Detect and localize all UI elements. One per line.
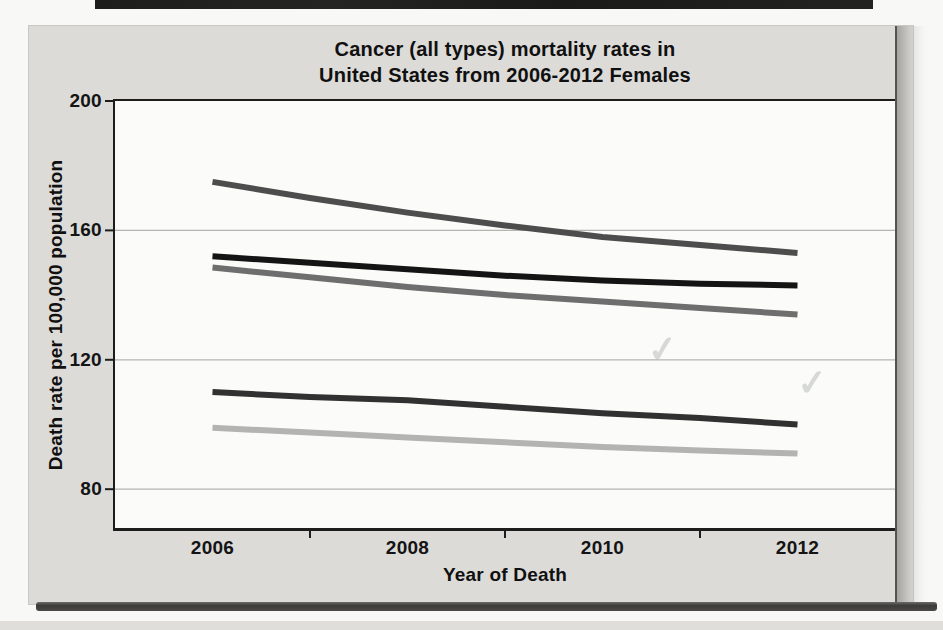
chart-title-line1: Cancer (all types) mortality rates in bbox=[113, 36, 897, 62]
x-tick-label: 2010 bbox=[558, 537, 648, 559]
page-bottom-strip bbox=[0, 621, 943, 630]
plot-area bbox=[113, 99, 897, 531]
bleedthrough-checkmark: ✓ bbox=[646, 327, 680, 372]
y-axis-title: Death rate per 100,000 population bbox=[45, 95, 69, 535]
y-tick-label: 80 bbox=[42, 478, 102, 500]
bleedthrough-checkmark: ✓ bbox=[796, 361, 829, 405]
y-tick-label: 120 bbox=[42, 349, 102, 371]
y-tick-label: 200 bbox=[42, 90, 102, 112]
cropped-text-bar bbox=[95, 0, 873, 9]
line-2-black bbox=[213, 256, 798, 285]
chart-title: Cancer (all types) mortality rates in Un… bbox=[113, 36, 897, 88]
plot-svg bbox=[115, 101, 895, 528]
y-tick-label: 160 bbox=[42, 219, 102, 241]
x-tick-label: 2006 bbox=[168, 537, 258, 559]
line-5-light-gray bbox=[213, 428, 798, 454]
x-tick-label: 2008 bbox=[363, 537, 453, 559]
line-4-charcoal bbox=[213, 392, 798, 424]
x-axis-title: Year of Death bbox=[113, 564, 897, 586]
x-tick-label: 2012 bbox=[753, 537, 843, 559]
page-bottom-rule bbox=[36, 602, 937, 611]
chart-title-line2: United States from 2006-2012 Females bbox=[113, 62, 897, 88]
line-1-dark-gray bbox=[213, 182, 798, 253]
page-edge-shadow bbox=[895, 26, 930, 604]
scanned-page: Cancer (all types) mortality rates in Un… bbox=[0, 0, 943, 630]
